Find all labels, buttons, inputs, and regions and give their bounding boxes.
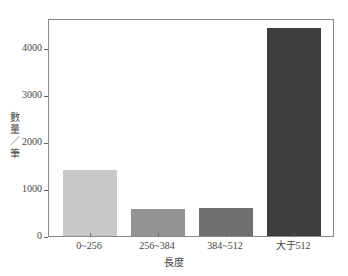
y-tick-label: 4000 <box>2 43 42 53</box>
x-tick-label: 256~384 <box>122 240 192 252</box>
bar-1 <box>131 209 185 236</box>
y-tick-label: 1000 <box>2 184 42 194</box>
y-axis-title: 數量／筆 <box>9 112 21 160</box>
x-tick-label: 大于512 <box>258 240 328 252</box>
bar-3 <box>267 28 321 236</box>
y-tick <box>44 190 48 191</box>
x-axis-title: 長度 <box>0 254 348 269</box>
x-tick-label: 384~512 <box>190 240 260 252</box>
x-tick <box>294 233 295 237</box>
bar-2 <box>199 208 253 236</box>
y-tick-label: 2000 <box>2 137 42 147</box>
y-tick-label: 3000 <box>2 90 42 100</box>
x-tick-label: 0~256 <box>54 240 124 252</box>
bar-0 <box>63 170 117 236</box>
y-tick-label: 0 <box>2 231 42 241</box>
x-tick <box>226 233 227 237</box>
x-tick <box>158 233 159 237</box>
y-tick <box>44 237 48 238</box>
y-tick <box>44 143 48 144</box>
plot-area <box>48 19 334 237</box>
y-tick <box>44 96 48 97</box>
x-tick <box>90 233 91 237</box>
y-tick <box>44 49 48 50</box>
